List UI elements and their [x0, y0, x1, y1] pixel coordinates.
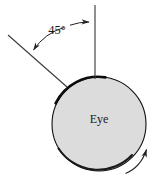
eye-label: Eye	[90, 112, 109, 126]
angle-label: 45°	[48, 23, 66, 37]
eye-rotation-diagram: 45° Eye	[0, 0, 162, 177]
figure-root: 45° Eye	[0, 0, 162, 177]
